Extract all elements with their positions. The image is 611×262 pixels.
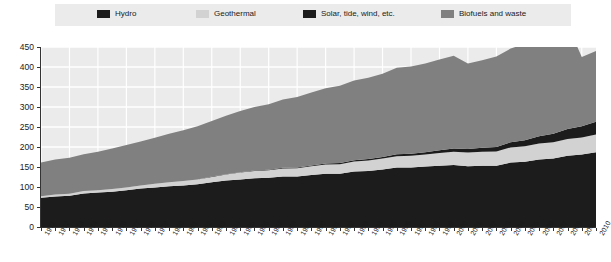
x-tick-mark xyxy=(240,228,241,231)
legend-label-hydro: Hydro xyxy=(115,9,136,18)
y-tick-label: 100 xyxy=(0,183,34,191)
y-tick-mark xyxy=(37,187,41,188)
y-tick-label: 400 xyxy=(0,63,34,71)
x-tick-mark xyxy=(383,228,384,231)
x-tick-mark xyxy=(112,228,113,231)
legend-label-geothermal: Geothermal xyxy=(214,9,256,18)
y-tick-mark xyxy=(37,147,41,148)
legend-label-solar: Solar, tide, wind, etc. xyxy=(321,9,395,18)
x-tick-mark xyxy=(155,228,156,231)
y-tick-mark xyxy=(37,107,41,108)
x-tick-mark xyxy=(525,228,526,231)
x-tick-mark xyxy=(496,228,497,231)
x-tick-mark xyxy=(169,228,170,231)
chart-legend: Hydro Geothermal Solar, tide, wind, etc.… xyxy=(55,4,571,26)
x-tick-mark xyxy=(354,228,355,231)
y-tick-label: 150 xyxy=(0,163,34,171)
x-tick-mark xyxy=(397,228,398,231)
y-tick-label: 450 xyxy=(0,43,34,51)
legend-item-hydro[interactable]: Hydro xyxy=(97,9,136,18)
x-tick-mark xyxy=(511,228,512,231)
x-tick-mark xyxy=(183,228,184,231)
x-tick-mark xyxy=(482,228,483,231)
x-tick-mark xyxy=(539,228,540,231)
x-tick-mark xyxy=(283,228,284,231)
legend-swatch-geothermal xyxy=(196,10,209,18)
x-tick-mark xyxy=(126,228,127,231)
x-tick-mark xyxy=(84,228,85,231)
x-tick-mark xyxy=(141,228,142,231)
x-tick-mark xyxy=(98,228,99,231)
y-tick-label: 50 xyxy=(0,203,34,211)
x-tick-mark xyxy=(425,228,426,231)
x-tick-mark xyxy=(553,228,554,231)
plot-container: 050100150200250300350400450 197119721973… xyxy=(0,40,604,262)
x-tick-label: 2010 xyxy=(598,220,611,237)
x-tick-mark xyxy=(340,228,341,231)
x-tick-mark xyxy=(269,228,270,231)
x-tick-mark xyxy=(454,228,455,231)
y-tick-mark xyxy=(37,127,41,128)
x-tick-mark xyxy=(55,228,56,231)
x-tick-mark xyxy=(468,228,469,231)
y-tick-mark xyxy=(37,167,41,168)
y-tick-mark xyxy=(37,87,41,88)
legend-swatch-biofuels xyxy=(441,10,454,18)
x-tick-mark xyxy=(226,228,227,231)
x-tick-mark xyxy=(439,228,440,231)
y-tick-label: 0 xyxy=(0,223,34,231)
x-tick-mark xyxy=(198,228,199,231)
y-tick-label: 200 xyxy=(0,143,34,151)
legend-item-solar[interactable]: Solar, tide, wind, etc. xyxy=(303,9,395,18)
x-tick-mark xyxy=(311,228,312,231)
y-tick-mark xyxy=(37,47,41,48)
legend-label-biofuels: Biofuels and waste xyxy=(459,9,526,18)
legend-swatch-solar xyxy=(303,10,316,18)
x-tick-mark xyxy=(41,228,42,231)
x-tick-mark xyxy=(582,228,583,231)
legend-swatch-hydro xyxy=(97,10,110,18)
x-tick-mark xyxy=(411,228,412,231)
x-tick-mark xyxy=(297,228,298,231)
y-tick-label: 350 xyxy=(0,83,34,91)
x-tick-mark xyxy=(69,228,70,231)
plot-area xyxy=(41,47,596,227)
x-tick-mark xyxy=(326,228,327,231)
y-tick-mark xyxy=(37,207,41,208)
stacked-area-svg xyxy=(41,47,596,227)
legend-item-biofuels[interactable]: Biofuels and waste xyxy=(441,9,526,18)
y-axis-line xyxy=(40,47,41,228)
legend-item-geothermal[interactable]: Geothermal xyxy=(196,9,256,18)
y-tick-mark xyxy=(37,67,41,68)
x-tick-mark xyxy=(212,228,213,231)
y-tick-label: 250 xyxy=(0,123,34,131)
x-tick-mark xyxy=(596,228,597,231)
x-tick-mark xyxy=(568,228,569,231)
x-tick-mark xyxy=(368,228,369,231)
y-tick-label: 300 xyxy=(0,103,34,111)
x-tick-mark xyxy=(254,228,255,231)
